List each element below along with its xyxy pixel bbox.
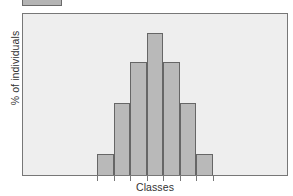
- histogram-bar: [114, 103, 131, 175]
- plot-area: [22, 13, 288, 176]
- histogram-bar: [163, 62, 180, 175]
- legend-swatch: [22, 0, 62, 6]
- histogram-bar: [196, 154, 213, 175]
- histogram-bar: [97, 154, 114, 175]
- histogram-bar: [130, 62, 147, 175]
- bars-container: [23, 14, 287, 175]
- histogram-bar: [147, 33, 164, 175]
- y-axis-label: % of individuals: [9, 8, 21, 128]
- histogram-figure: % of individuals Classes: [0, 0, 293, 196]
- x-axis-label: Classes: [22, 181, 288, 193]
- histogram-bar: [180, 103, 197, 175]
